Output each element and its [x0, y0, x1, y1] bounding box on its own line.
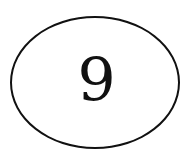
figure-canvas: 9 — [0, 0, 193, 161]
numeral-label: 9 — [0, 44, 193, 116]
